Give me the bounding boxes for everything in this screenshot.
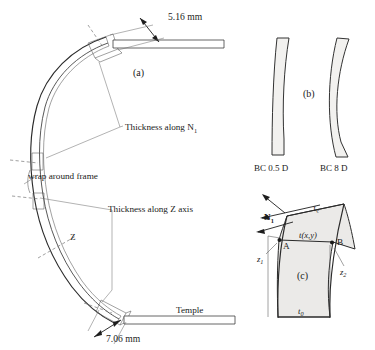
panel-c-point-b-marker <box>330 241 334 245</box>
panel-c-label-z2: z2 <box>339 267 346 278</box>
panel-c-label-n1: N1 <box>264 212 274 224</box>
panel-b-tag: (b) <box>303 88 315 100</box>
panel-a-lens-end-top <box>106 37 109 46</box>
panel-c-point-a-marker <box>278 238 282 242</box>
panel-c-group: N1 te t(x,y) A B z1 z2 t0 (c) <box>256 194 355 318</box>
panel-a-label-temple: Temple <box>176 305 203 315</box>
panel-a-group: 5.16 mm 7.06 mm Thickness along N1 wrap … <box>10 11 235 344</box>
panel-a-lens-inner-curve <box>40 43 120 319</box>
panel-a-dash-left-lower <box>12 196 40 199</box>
panel-a-label-thickness-n1: Thickness along N1 <box>125 122 197 134</box>
panel-a-tag: (a) <box>133 67 144 79</box>
panel-c-leader-z2 <box>334 248 344 266</box>
panel-a-label-z-axis: Z <box>70 232 76 242</box>
arrow-head-upper-right-icon <box>113 320 121 327</box>
arrow-head-up-icon <box>140 18 147 25</box>
panel-a-leader-thickness-z <box>40 198 112 302</box>
panel-c-leader-z1 <box>266 243 277 254</box>
panel-c-tag: (c) <box>297 270 308 282</box>
panel-c-label-point-b: B <box>337 237 343 247</box>
panel-c-left-tick <box>268 236 280 238</box>
arrow-head-lower-left-icon <box>94 330 102 337</box>
panel-a-label-wrap-frame: wrap around frame <box>28 171 98 181</box>
panel-b-caption-left: BC 0.5 D <box>254 163 289 173</box>
panel-a-lens-guide-curve <box>44 46 122 316</box>
panel-c-label-z1: z1 <box>256 254 263 265</box>
panel-a-frame-notch-upper <box>32 153 43 170</box>
panel-a-temple-bottom <box>124 316 235 324</box>
panel-a-leader-thickness-n1-b <box>46 127 120 158</box>
arrow-head-n1-upper-icon <box>256 229 265 234</box>
panel-b-caption-right: BC 8 D <box>320 163 348 173</box>
panel-a-hinge-block-top-edge <box>95 49 122 62</box>
panel-c-label-point-a: A <box>283 241 290 251</box>
scientific-figure: 5.16 mm 7.06 mm Thickness along N1 wrap … <box>0 0 375 350</box>
panel-a-leader-thickness-n1 <box>99 62 123 127</box>
figure-canvas: 5.16 mm 7.06 mm Thickness along N1 wrap … <box>0 0 375 350</box>
panel-b-group: BC 0.5 D BC 8 D (b) <box>254 38 349 173</box>
panel-a-dash-left <box>10 160 38 163</box>
panel-c-label-txy: t(x,y) <box>299 230 317 240</box>
panel-a-dim-bottom-label: 7.06 mm <box>106 333 141 344</box>
panel-c-element-shape <box>277 204 355 317</box>
panel-c-label-te: te <box>312 202 320 214</box>
panel-a-dim-top-label: 5.16 mm <box>168 11 203 22</box>
panel-b-lens-left <box>272 38 289 155</box>
panel-a-label-thickness-z: Thickness along Z axis <box>108 204 193 214</box>
panel-b-lens-right <box>329 38 349 157</box>
